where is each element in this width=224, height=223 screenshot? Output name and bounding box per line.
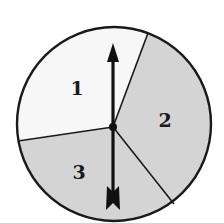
section-label-1: 1 [70,77,83,99]
section-label-3: 3 [72,161,85,183]
spinner-diagram: 1 2 3 [0,0,224,223]
section-label-2: 2 [158,109,171,131]
hub [109,123,117,131]
